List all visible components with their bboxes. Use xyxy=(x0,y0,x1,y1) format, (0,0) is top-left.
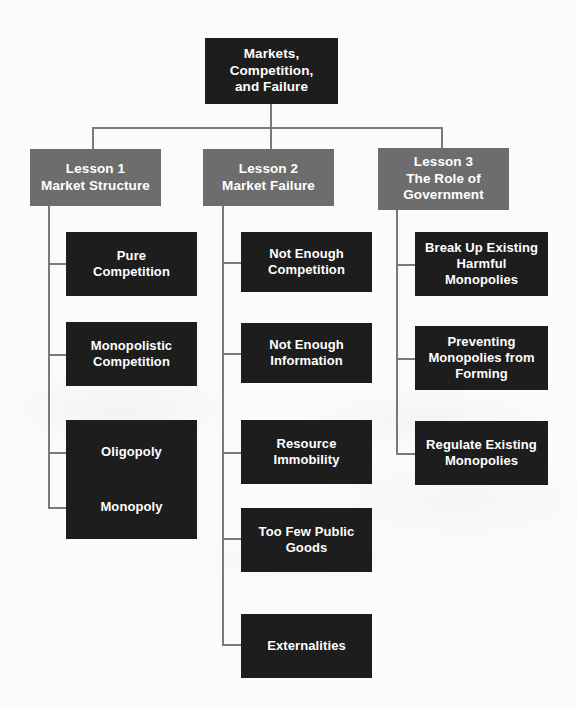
connector-rung-lesson-2-child-2 xyxy=(222,353,242,355)
root-node-markets-competition-and-failure: Markets, Competition, and Failure xyxy=(205,38,338,104)
connector-rung-lesson-3-child-1 xyxy=(396,264,416,266)
branch-node-lesson-2: Lesson 2 Market Failure xyxy=(203,149,334,206)
org-chart-diagram: Markets, Competition, and Failure Lesson… xyxy=(0,0,577,706)
leaf-node-monopolistic-competition: Monopolistic Competition xyxy=(66,322,197,386)
leaf-node-preventing-monopolies-from-forming: Preventing Monopolies from Forming xyxy=(415,326,548,390)
connector-rung-lesson-2-child-1 xyxy=(222,262,242,264)
leaf-node-pure-competition: Pure Competition xyxy=(66,232,197,296)
connector-rung-lesson-2-child-5 xyxy=(222,644,242,646)
connector-root-horizontal-bar xyxy=(92,127,443,129)
connector-rung-lesson-1-child-2 xyxy=(48,354,67,356)
connector-drop-lesson-1 xyxy=(92,127,94,149)
branch-node-lesson-3: Lesson 3 The Role of Government xyxy=(378,148,509,210)
branch-node-lesson-1: Lesson 1 Market Structure xyxy=(30,149,161,206)
connector-root-stem xyxy=(270,104,272,129)
leaf-node-too-few-public-goods: Too Few Public Goods xyxy=(241,508,372,572)
connector-rung-lesson-2-child-4 xyxy=(222,538,242,540)
leaf-node-regulate-existing-monopolies: Regulate Existing Monopolies xyxy=(415,421,548,485)
connector-rung-lesson-1-child-4 xyxy=(48,507,67,509)
connector-rung-lesson-3-child-2 xyxy=(396,358,416,360)
connector-drop-lesson-3 xyxy=(441,127,443,149)
connector-rung-lesson-1-child-1 xyxy=(48,263,67,265)
leaf-node-not-enough-competition: Not Enough Competition xyxy=(241,232,372,292)
leaf-node-resource-immobility: Resource Immobility xyxy=(241,420,372,484)
connector-rung-lesson-1-child-3 xyxy=(48,452,67,454)
connector-rung-lesson-3-child-3 xyxy=(396,453,416,455)
connector-trunk-lesson-3 xyxy=(396,210,398,455)
connector-drop-lesson-2 xyxy=(270,127,272,149)
connector-trunk-lesson-2 xyxy=(222,206,224,646)
leaf-node-break-up-existing-harmful-monopolies: Break Up Existing Harmful Monopolies xyxy=(415,232,548,296)
connector-rung-lesson-2-child-3 xyxy=(222,452,242,454)
leaf-node-externalities: Externalities xyxy=(241,614,372,678)
leaf-node-not-enough-information: Not Enough Information xyxy=(241,323,372,383)
connector-trunk-lesson-1 xyxy=(48,206,50,509)
leaf-node-monopoly: Monopoly xyxy=(66,475,197,539)
